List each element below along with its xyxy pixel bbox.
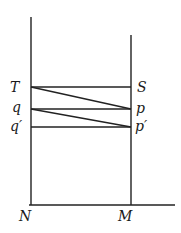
label-S: S — [137, 79, 147, 95]
geometry-diagram: T q q′ S p p′ N M — [0, 0, 181, 233]
label-M: M — [117, 208, 133, 224]
label-p-prime: p′ — [135, 118, 148, 134]
line-T-p — [31, 87, 131, 109]
label-N: N — [18, 208, 32, 224]
label-q-prime: q′ — [10, 118, 23, 134]
label-T: T — [10, 79, 21, 95]
line-q-p-prime — [31, 109, 131, 127]
label-p: p — [136, 100, 145, 116]
label-q: q — [12, 99, 21, 115]
